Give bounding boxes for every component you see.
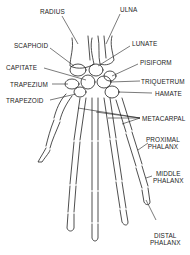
label-proximal-line2: PHALANX: [146, 143, 180, 150]
label-radius: RADIUS: [40, 8, 65, 15]
capitate-bone: [81, 75, 95, 89]
label-hamate: HAMATE: [155, 90, 182, 97]
label-metacarpal: METACARPAL: [142, 115, 185, 122]
label-proximal-phalanx: PROXIMAL PHALANX: [146, 136, 180, 150]
middle-metacarpal: [92, 98, 98, 140]
trapezoid-bone: [74, 87, 86, 97]
label-trapezoid: TRAPEZOID: [6, 97, 43, 104]
label-middle-line1: MIDDLE: [153, 170, 184, 177]
hand-bones-drawing: [0, 0, 190, 255]
label-triquetrum: TRIQUETRUM: [141, 78, 185, 85]
label-middle-phalanx: MIDDLE PHALANX: [153, 170, 184, 184]
label-scaphoid: SCAPHOID: [14, 42, 48, 49]
label-middle-line2: PHALANX: [153, 177, 184, 184]
label-capitate: CAPITATE: [6, 64, 37, 71]
lunate-bone: [89, 64, 103, 76]
label-distal-line2: PHALANX: [150, 239, 181, 246]
radius-bone: [70, 38, 94, 68]
hand-skeleton-diagram: RADIUS ULNA SCAPHOID LUNATE CAPITATE PIS…: [0, 0, 190, 255]
label-lunate: LUNATE: [132, 40, 157, 47]
label-trapezium: TRAPEZIUM: [10, 81, 48, 88]
label-distal-line1: DISTAL: [150, 232, 181, 239]
hamate-bone: [105, 86, 119, 98]
label-proximal-line1: PROXIMAL: [146, 136, 180, 143]
ulna-bone: [98, 36, 114, 65]
label-ulna: ULNA: [120, 6, 137, 13]
label-pisiform: PISIFORM: [140, 59, 172, 66]
thumb-metacarpal: [54, 94, 72, 120]
label-distal-phalanx: DISTAL PHALANX: [150, 232, 181, 246]
scaphoid-bone: [70, 64, 86, 76]
index-metacarpal: [74, 98, 86, 140]
